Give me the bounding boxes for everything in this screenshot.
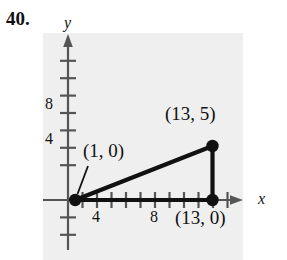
x-axis-arrowhead: [230, 195, 243, 205]
leader-line-point-1-0: [78, 166, 89, 194]
vertex-dot-1-0: [69, 194, 81, 206]
y-axis-arrowhead: [63, 34, 73, 47]
point-label-13-5: (13, 5): [165, 103, 216, 125]
point-label-13-0: (13, 0): [175, 207, 226, 229]
x-tick-label-4: 4: [92, 208, 100, 226]
x-tick-label-8: 8: [150, 208, 158, 226]
coordinate-graph: [0, 0, 287, 260]
point-label-1-0: (1, 0): [83, 140, 124, 162]
vertex-dot-13-0: [206, 194, 218, 206]
y-tick-label-8: 8: [45, 95, 53, 113]
x-axis-label: x: [258, 190, 265, 208]
figure-container: 40.: [0, 0, 287, 260]
y-tick-label-4: 4: [45, 130, 53, 148]
vertex-dot-13-5: [206, 140, 218, 152]
y-axis-label: y: [64, 14, 71, 32]
